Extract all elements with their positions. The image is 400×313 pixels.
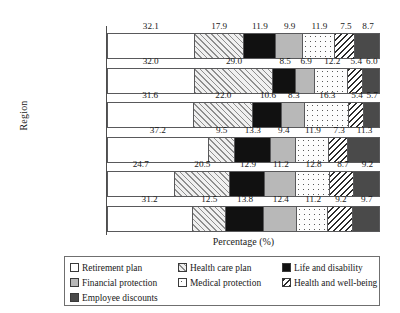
bar-segment: [264, 207, 298, 231]
legend-label: Financial protection: [82, 278, 157, 288]
legend-item[interactable]: Life and disability: [282, 263, 377, 273]
bar-segment: [305, 103, 349, 127]
segment-value-label: 6.0: [366, 56, 377, 66]
bar-segment: [271, 138, 297, 162]
segment-value-label: 5.4: [351, 90, 362, 100]
bar-segment: [363, 69, 379, 93]
bar-segment: [348, 138, 379, 162]
segment-value-label: 11.2: [305, 194, 321, 204]
bar-segment: [335, 34, 355, 58]
segment-value-label: 37.2: [150, 125, 166, 135]
segment-value-label: 9.2: [335, 194, 346, 204]
legend-label: Life and disability: [294, 263, 363, 273]
segment-value-label: 11.3: [357, 125, 373, 135]
bar-segment: [175, 172, 231, 196]
legend-label: Health care plan: [190, 263, 251, 273]
bar-segment: [108, 138, 209, 162]
segment-value-label: 6.9: [300, 56, 311, 66]
bar-segment: [315, 69, 348, 93]
bar-segment: [235, 138, 271, 162]
bar-segment: [108, 103, 194, 127]
bar-segment: [296, 138, 328, 162]
legend-item[interactable]: Medical protection: [178, 278, 282, 288]
bar-segment: [108, 34, 195, 58]
bar-segment: [108, 69, 195, 93]
bar-segment: [349, 103, 364, 127]
segment-value-label: 8.7: [362, 21, 373, 31]
bar-segment: [273, 69, 296, 93]
bar-segment: [276, 34, 303, 58]
bar-segment: [354, 172, 379, 196]
legend-item[interactable]: Health care plan: [178, 263, 282, 273]
bar-segment: [253, 103, 282, 127]
bar-segment: [364, 103, 379, 127]
bar-segment: [194, 103, 254, 127]
segment-value-label: 12.9: [240, 159, 256, 169]
segment-value-label: 12.5: [201, 194, 217, 204]
segment-value-label: 8.5: [279, 56, 290, 66]
legend-swatch-life-icon: [282, 263, 291, 272]
segment-value-label: 12.2: [324, 56, 340, 66]
segment-value-label: 32.1: [143, 21, 159, 31]
bar-segment: [348, 69, 363, 93]
segment-value-label: 8.7: [337, 159, 348, 169]
bar-segment: [108, 207, 193, 231]
legend-label: Retirement plan: [82, 263, 142, 273]
segment-value-label: 12.8: [306, 159, 322, 169]
bar-segment: [297, 207, 327, 231]
segment-value-label: 16.3: [319, 90, 335, 100]
segment-value-label: 7.3: [333, 125, 344, 135]
segment-value-label: 11.9: [252, 21, 268, 31]
legend-swatch-healthcare-icon: [178, 263, 187, 272]
segment-value-label: 9.9: [284, 21, 295, 31]
segment-value-label: 11.9: [305, 125, 321, 135]
bar-segment: [355, 34, 379, 58]
segment-value-label: 31.6: [142, 90, 158, 100]
bar-segment: [353, 207, 379, 231]
segment-value-label: 13.3: [245, 125, 261, 135]
legend-swatch-financial-icon: [70, 278, 79, 287]
legend-swatch-discounts-icon: [70, 293, 79, 302]
segment-value-label: 24.7: [133, 159, 149, 169]
bar-segment: [108, 172, 175, 196]
segment-value-label: 11.9: [312, 21, 328, 31]
segment-value-label: 9.2: [362, 159, 373, 169]
segment-value-label: 10.6: [260, 90, 276, 100]
bar-segment: [329, 138, 349, 162]
bar-segment: [193, 207, 227, 231]
stacked-bar-chart: Region Percentage (%) GlobalUSCanadaEuro…: [0, 0, 400, 313]
segment-value-label: 9.4: [278, 125, 289, 135]
segment-value-label: 32.0: [143, 56, 159, 66]
bar-segment: [209, 138, 235, 162]
legend-item[interactable]: Employee discounts: [70, 293, 178, 303]
segment-value-label: 12.4: [273, 194, 289, 204]
bar-segment: [282, 103, 305, 127]
segment-value-label: 31.2: [142, 194, 158, 204]
legend-label: Health and well-being: [294, 278, 377, 288]
bar-segment: [230, 172, 265, 196]
bar-segment: [296, 172, 331, 196]
bar-segment: [296, 69, 315, 93]
segment-value-label: 9.5: [216, 125, 227, 135]
bar-segment: [303, 34, 335, 58]
legend-item[interactable]: Financial protection: [70, 278, 178, 288]
legend-item[interactable]: Health and well-being: [282, 278, 377, 288]
segment-value-label: 20.5: [194, 159, 210, 169]
segment-value-label: 8.3: [288, 90, 299, 100]
bar-segment: [328, 207, 353, 231]
legend-swatch-medical-icon: [178, 278, 187, 287]
bar-segment: [330, 172, 354, 196]
bar-segment: [226, 207, 263, 231]
legend-item[interactable]: Retirement plan: [70, 263, 178, 273]
segment-value-label: 11.2: [273, 159, 289, 169]
segment-value-label: 5.4: [350, 56, 361, 66]
segment-value-label: 9.7: [361, 194, 372, 204]
bar-segment: [195, 69, 274, 93]
segment-value-label: 7.5: [340, 21, 351, 31]
segment-value-label: 13.8: [237, 194, 253, 204]
segment-value-label: 17.9: [211, 21, 227, 31]
bar-row: [107, 206, 380, 232]
legend-swatch-wellbeing-icon: [282, 278, 291, 287]
legend-label: Medical protection: [190, 278, 261, 288]
legend-swatch-retirement-icon: [70, 263, 79, 272]
